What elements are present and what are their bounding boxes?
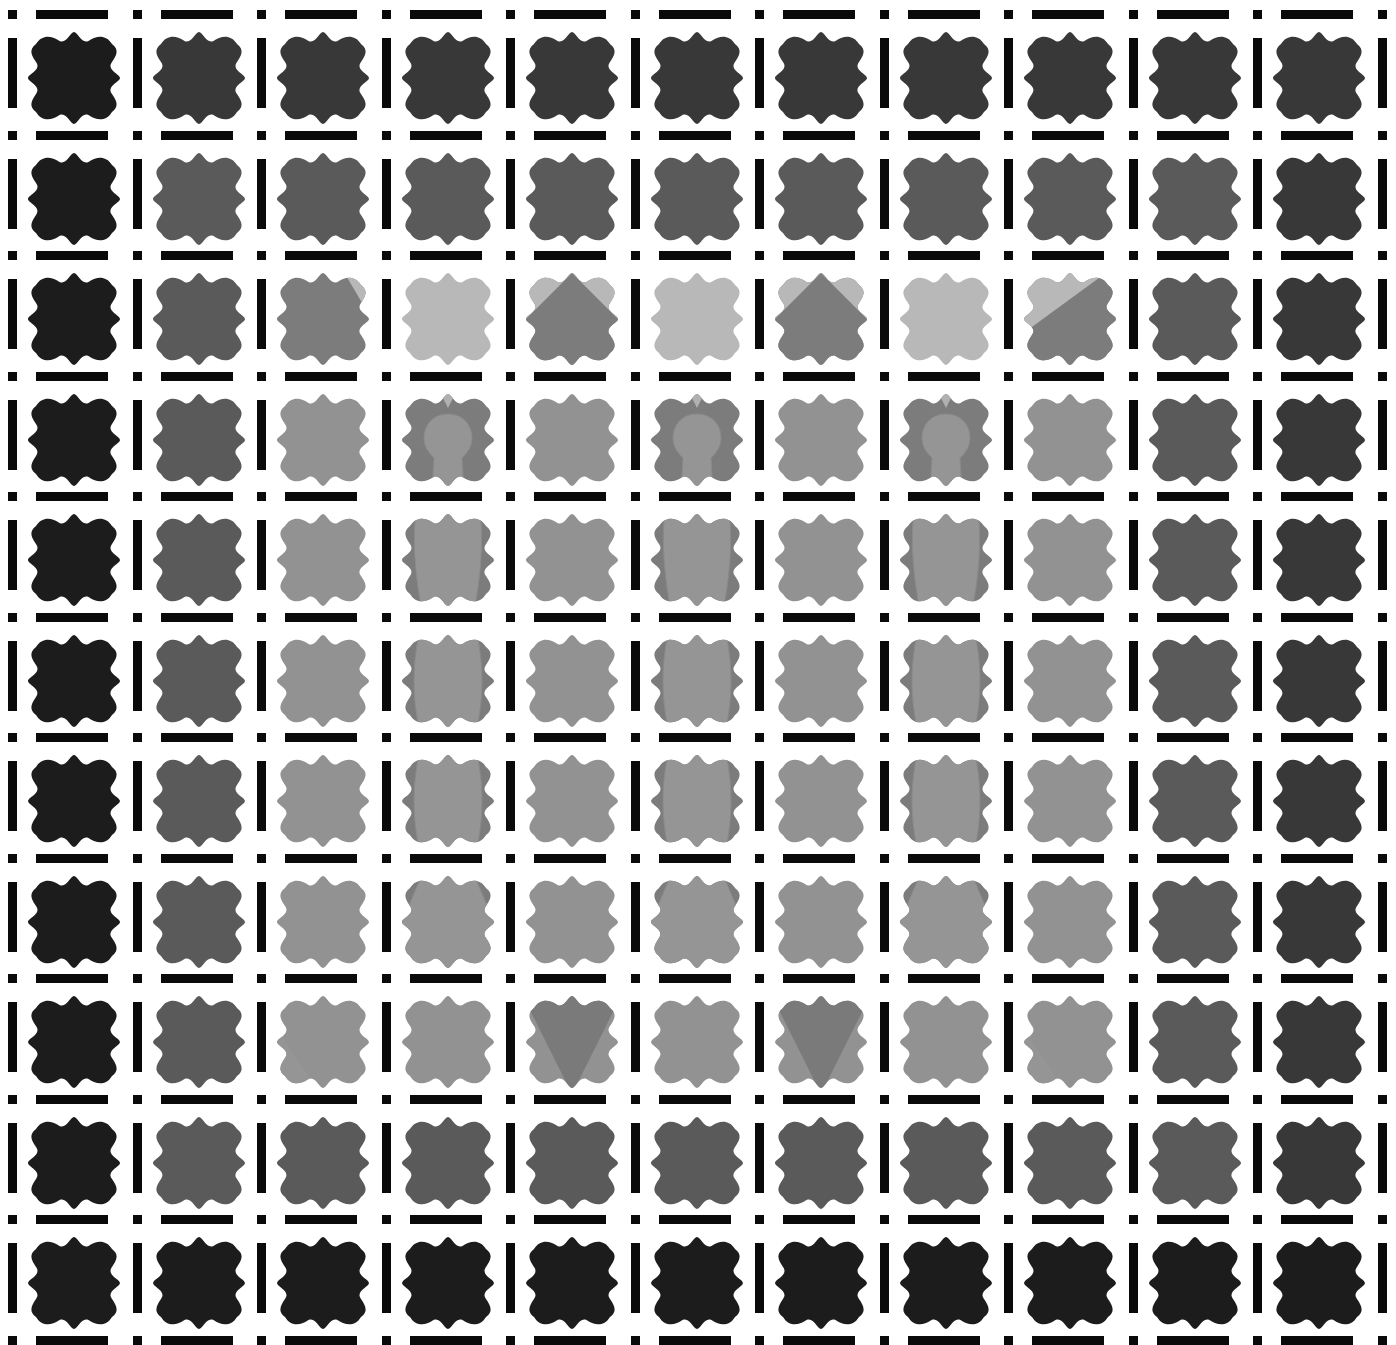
separator-hbar xyxy=(161,613,233,622)
separator-hbar xyxy=(908,974,980,983)
wavy-tile xyxy=(520,990,624,1094)
separator-dot xyxy=(631,854,640,863)
separator-dot xyxy=(8,131,17,140)
wavy-tile-shape xyxy=(271,870,375,974)
wavy-tile-shape xyxy=(520,1111,624,1215)
separator-vbar xyxy=(8,761,17,831)
wavy-tile xyxy=(1018,388,1122,492)
wavy-tile-shape xyxy=(769,1231,873,1335)
wavy-tile xyxy=(645,147,749,251)
separator-vbar xyxy=(1004,279,1013,349)
separator-vbar xyxy=(133,159,142,229)
wavy-tile xyxy=(520,870,624,974)
separator-hbar xyxy=(1032,492,1104,501)
wavy-tile xyxy=(147,990,251,1094)
wavy-tile xyxy=(1143,267,1247,371)
separator-hbar xyxy=(908,251,980,260)
separator-vbar xyxy=(1378,761,1387,831)
separator-vbar xyxy=(631,279,640,349)
separator-hbar xyxy=(410,613,482,622)
wavy-tile xyxy=(396,1111,500,1215)
separator-hbar xyxy=(1281,974,1353,983)
wavy-tile xyxy=(271,508,375,612)
separator-hbar xyxy=(1157,131,1229,140)
wavy-tile-shape xyxy=(396,870,500,974)
separator-vbar xyxy=(1378,1243,1387,1313)
separator-dot xyxy=(755,372,764,381)
separator-hbar xyxy=(659,1215,731,1224)
separator-hbar xyxy=(534,492,606,501)
wavy-tile-shape xyxy=(1267,990,1371,1094)
wavy-tile-shape xyxy=(520,147,624,251)
separator-vbar xyxy=(755,1002,764,1072)
wavy-tile-shape xyxy=(22,267,126,371)
separator-dot xyxy=(1004,613,1013,622)
wavy-tile-shape xyxy=(645,267,749,371)
wavy-tile xyxy=(1143,749,1247,853)
separator-dot xyxy=(631,372,640,381)
wavy-tile-shape xyxy=(147,1231,251,1335)
wavy-tile xyxy=(271,1231,375,1335)
wavy-tile-shape xyxy=(22,1231,126,1335)
separator-hbar xyxy=(908,1215,980,1224)
separator-vbar xyxy=(880,159,889,229)
separator-vbar xyxy=(257,279,266,349)
separator-vbar xyxy=(133,1243,142,1313)
wavy-tile xyxy=(22,990,126,1094)
separator-hbar xyxy=(908,733,980,742)
separator-vbar xyxy=(880,38,889,108)
wavy-tile xyxy=(769,1231,873,1335)
separator-vbar xyxy=(1129,279,1138,349)
separator-vbar xyxy=(1378,400,1387,470)
wavy-tile xyxy=(645,629,749,733)
separator-dot xyxy=(257,10,266,19)
separator-hbar xyxy=(161,251,233,260)
separator-vbar xyxy=(631,520,640,590)
separator-hbar xyxy=(783,1095,855,1104)
separator-dot xyxy=(8,1095,17,1104)
separator-vbar xyxy=(382,882,391,952)
separator-vbar xyxy=(8,641,17,711)
wavy-tile-shape xyxy=(396,990,500,1094)
separator-hbar xyxy=(1281,733,1353,742)
separator-hbar xyxy=(534,854,606,863)
wavy-tile xyxy=(769,26,873,130)
separator-hbar xyxy=(659,1095,731,1104)
separator-hbar xyxy=(285,131,357,140)
separator-dot xyxy=(257,974,266,983)
separator-hbar xyxy=(1281,131,1353,140)
separator-hbar xyxy=(161,10,233,19)
separator-hbar xyxy=(285,974,357,983)
separator-hbar xyxy=(783,131,855,140)
separator-vbar xyxy=(1004,520,1013,590)
separator-dot xyxy=(1004,1215,1013,1224)
wavy-tile-shape xyxy=(271,1111,375,1215)
separator-dot xyxy=(506,974,515,983)
wavy-tile-shape xyxy=(1143,508,1247,612)
wavy-tile xyxy=(396,267,500,371)
separator-dot xyxy=(1253,1336,1262,1345)
wavy-tile xyxy=(520,1231,624,1335)
separator-hbar xyxy=(1032,733,1104,742)
separator-hbar xyxy=(161,1336,233,1345)
separator-hbar xyxy=(36,1336,108,1345)
wavy-tile-shape xyxy=(520,267,624,371)
wavy-tile xyxy=(520,388,624,492)
separator-vbar xyxy=(506,279,515,349)
separator-vbar xyxy=(755,38,764,108)
separator-vbar xyxy=(755,1123,764,1193)
separator-vbar xyxy=(382,520,391,590)
wavy-tile xyxy=(1143,508,1247,612)
separator-dot xyxy=(1378,613,1387,622)
wavy-tile-shape xyxy=(520,749,624,853)
separator-hbar xyxy=(783,10,855,19)
separator-dot xyxy=(1129,733,1138,742)
wavy-tile xyxy=(271,267,375,371)
separator-dot xyxy=(133,251,142,260)
separator-dot xyxy=(880,372,889,381)
separator-dot xyxy=(880,251,889,260)
wavy-tile-shape xyxy=(520,629,624,733)
wavy-tile-shape xyxy=(147,147,251,251)
separator-dot xyxy=(506,1336,515,1345)
separator-dot xyxy=(8,613,17,622)
